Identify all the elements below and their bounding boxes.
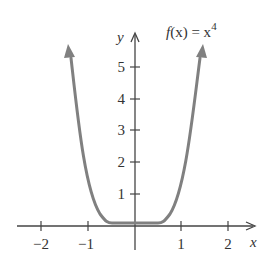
y-tick-label: 4 (118, 91, 126, 107)
y-tick-label: 5 (118, 59, 126, 75)
x-tick-label: 1 (177, 236, 185, 252)
y-tick-label: 2 (118, 154, 126, 170)
x-tick-label: 2 (224, 236, 232, 252)
function-label: f(x) = x4 (166, 20, 217, 41)
chart: −2 −1 1 2 1 2 3 4 5 x y f(x) = x4 (0, 0, 274, 274)
plot-area: −2 −1 1 2 1 2 3 4 5 x y f(x) = x4 (0, 0, 274, 274)
x-tick-label: −2 (33, 236, 49, 252)
y-axis-label: y (115, 29, 124, 45)
y-tick-label: 3 (118, 122, 126, 138)
x-axis-label: x (249, 234, 257, 250)
y-tick-label: 1 (118, 186, 126, 202)
x-tick-label: −1 (78, 236, 94, 252)
left-arrow-icon (64, 44, 75, 58)
right-arrow-icon (196, 44, 207, 58)
